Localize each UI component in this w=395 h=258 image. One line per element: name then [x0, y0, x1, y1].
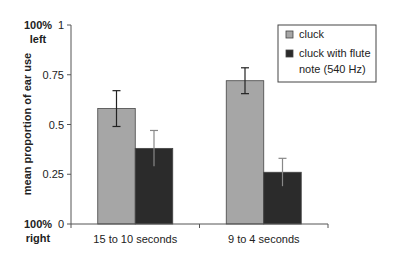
y-tick-label: 0.75 [43, 69, 64, 81]
x-tick-labels-group: 15 to 10 seconds9 to 4 seconds [93, 233, 300, 245]
legend: cluckcluck with flutenote (540 Hz) [278, 25, 376, 82]
y-annotation-top-line-2: left [30, 33, 47, 45]
y-tick-label: 1 [58, 19, 64, 31]
y-axis-title: mean proportion of ear use [21, 53, 33, 195]
y-ticks-group: 00.250.50.751 [43, 19, 71, 230]
x-tick-label: 15 to 10 seconds [93, 233, 177, 245]
legend-label: note (540 Hz) [299, 63, 366, 75]
bars-group [98, 81, 302, 224]
bar-chart: 100% left 100% right mean proportion of … [0, 0, 395, 258]
legend-label: cluck with flute [299, 47, 371, 59]
y-annotation-top-line-1: 100% [24, 19, 52, 31]
y-annotation-bottom-line-2: right [26, 232, 51, 244]
y-tick-label: 0.25 [43, 168, 64, 180]
y-tick-label: 0.5 [49, 119, 64, 131]
y-tick-label: 0 [58, 218, 64, 230]
bar [226, 81, 264, 224]
legend-swatch [286, 31, 293, 38]
y-annotation-bottom-line-1: 100% [24, 218, 52, 230]
legend-swatch [286, 50, 293, 57]
legend-label: cluck [299, 28, 325, 40]
x-tick-label: 9 to 4 seconds [228, 233, 300, 245]
